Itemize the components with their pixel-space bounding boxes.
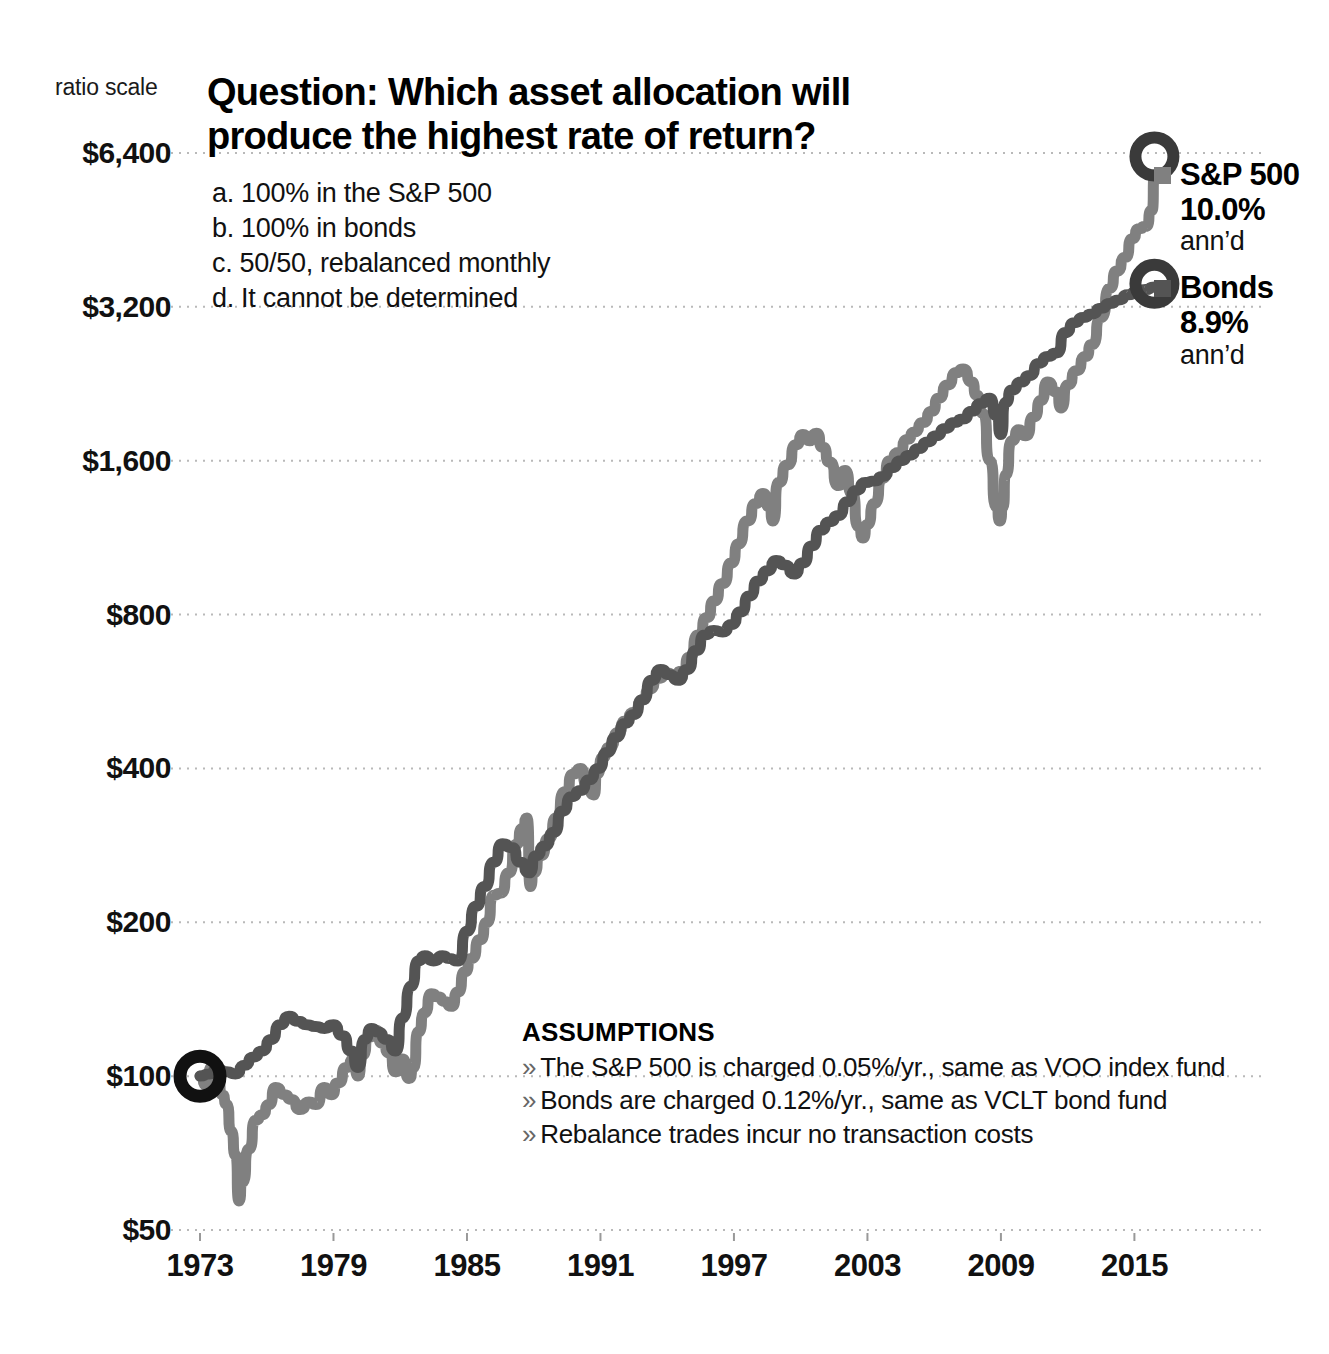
x-axis-label: 1991 xyxy=(567,1248,634,1284)
legend-label-sp500: S&P 50010.0% xyxy=(1180,158,1299,227)
legend-entry-sp500: S&P 50010.0% ann’d xyxy=(1154,158,1329,257)
legend-swatch-bonds xyxy=(1154,280,1171,297)
x-axis-label: 2003 xyxy=(834,1248,901,1284)
x-axis-label: 1979 xyxy=(300,1248,367,1284)
legend-entry-bonds: Bonds8.9% ann’d xyxy=(1154,271,1329,370)
ratio-scale-note: ratio scale xyxy=(55,74,158,101)
legend-swatch-sp500 xyxy=(1154,167,1171,184)
assumptions-block: ASSUMPTIONS »The S&P 500 is charged 0.05… xyxy=(522,1017,1262,1151)
assumption-item: »Rebalance trades incur no transaction c… xyxy=(522,1118,1262,1151)
y-axis-label: $1,600 xyxy=(82,444,171,478)
answer-option-d: d. It cannot be determined xyxy=(212,281,852,316)
answer-option-a: a. 100% in the S&P 500 xyxy=(212,176,852,211)
x-axis-label: 2015 xyxy=(1101,1248,1168,1284)
y-axis-label: $200 xyxy=(106,905,171,939)
x-axis-label: 2009 xyxy=(967,1248,1034,1284)
y-axis-label: $50 xyxy=(122,1213,171,1247)
y-axis-label: $100 xyxy=(106,1059,171,1093)
x-axis-label: 1973 xyxy=(167,1248,234,1284)
bullet-icon: » xyxy=(522,1085,536,1115)
bullet-icon: » xyxy=(522,1052,536,1082)
series-line-bonds xyxy=(200,287,1154,1076)
page-title: Question: Which asset allocation will pr… xyxy=(207,70,967,159)
y-axis-label: $800 xyxy=(106,598,171,632)
x-axis-label: 1985 xyxy=(433,1248,500,1284)
assumption-item: »The S&P 500 is charged 0.05%/yr., same … xyxy=(522,1051,1262,1084)
bullet-icon: » xyxy=(522,1119,536,1149)
answer-option-b: b. 100% in bonds xyxy=(212,211,852,246)
y-axis-label: $3,200 xyxy=(82,290,171,324)
y-axis-label: $400 xyxy=(106,751,171,785)
y-axis-label: $6,400 xyxy=(82,136,171,170)
chart-page: ratio scale $50$100$200$400$800$1,600$3,… xyxy=(0,0,1329,1354)
answer-options: a. 100% in the S&P 500 b. 100% in bonds … xyxy=(212,176,852,316)
assumption-item: »Bonds are charged 0.12%/yr., same as VC… xyxy=(522,1084,1262,1117)
chart-legend: S&P 50010.0% ann’d Bonds8.9% ann’d xyxy=(1154,158,1329,384)
legend-annualized-sp500: ann’d xyxy=(1180,227,1329,257)
x-axis-label: 1997 xyxy=(700,1248,767,1284)
x-axis-ticks xyxy=(200,1233,1134,1241)
answer-option-c: c. 50/50, rebalanced monthly xyxy=(212,246,852,281)
legend-annualized-bonds: ann’d xyxy=(1180,341,1329,371)
assumptions-title: ASSUMPTIONS xyxy=(522,1017,1262,1048)
legend-label-bonds: Bonds8.9% xyxy=(1180,271,1273,340)
